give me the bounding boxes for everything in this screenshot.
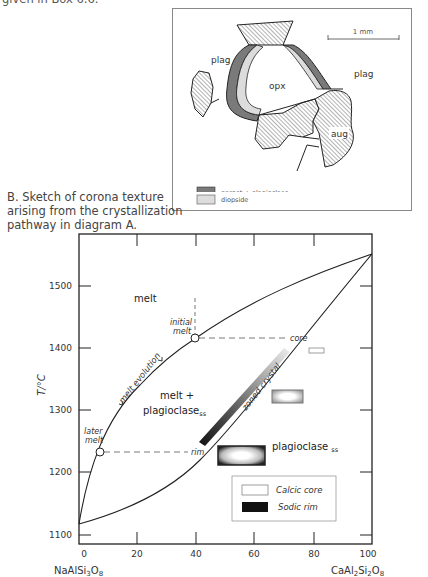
label-melt-plus: melt +	[160, 390, 194, 401]
y-tick-1300: 1300	[49, 405, 72, 415]
x-label-albite: NaAlSi3O8	[54, 565, 103, 577]
x-tick-80: 80	[308, 549, 320, 559]
initial-melt-marker	[191, 334, 199, 342]
x-label-anorthite: CaAl2Si2O8	[331, 565, 384, 577]
label-melt-evolution: melt evolution	[117, 351, 163, 406]
x-tick-100: 100	[359, 549, 376, 559]
y-tick-1200: 1200	[49, 467, 72, 477]
y-axis-label: T/°C	[36, 374, 47, 395]
crystal-core-small	[309, 348, 324, 353]
y-tick-1100: 1100	[49, 530, 72, 540]
legend-swatch-calcic-core	[242, 485, 268, 495]
label-core: core	[290, 334, 308, 343]
crystal-intermediate	[272, 390, 303, 403]
legend-label-calcic-core: Calcic core	[276, 485, 323, 495]
label-initial: initial	[170, 318, 193, 327]
label-rim: rim	[191, 448, 205, 457]
label-plagioclase-ss: plagioclasess	[143, 405, 207, 418]
label-later-melt: melt	[85, 436, 104, 445]
legend-swatch-sodic-rim	[242, 502, 268, 512]
label-melt: melt	[134, 293, 157, 304]
phase-diagram: 1500 1400 1300 1200 1100 0 20 40 60 80 1…	[0, 0, 428, 577]
chart-legend	[232, 476, 336, 521]
x-tick-20: 20	[131, 549, 143, 559]
legend-label-sodic-rim: Sodic rim	[278, 502, 318, 512]
label-zoned-crystal: zoned crystal	[239, 361, 283, 413]
x-tick-60: 60	[248, 549, 260, 559]
label-plagioclase-solid: plagioclasess	[272, 441, 339, 454]
label-initial-melt: melt	[173, 327, 192, 336]
x-tick-0: 0	[81, 549, 87, 559]
crystal-zoned-large	[218, 446, 265, 465]
x-tick-40: 40	[190, 549, 202, 559]
y-tick-1500: 1500	[49, 281, 72, 291]
label-later: later	[84, 427, 103, 436]
y-tick-1400: 1400	[49, 343, 72, 353]
later-melt-marker	[96, 448, 104, 456]
